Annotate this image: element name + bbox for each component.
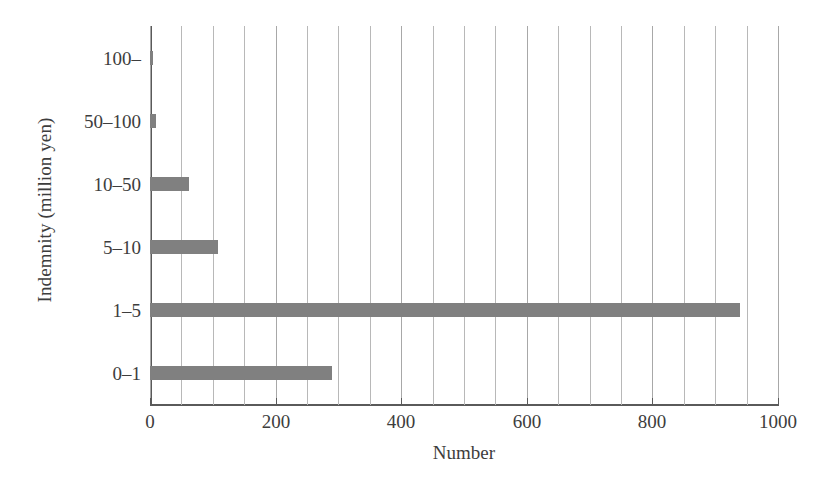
gridline <box>747 26 748 405</box>
gridline <box>778 26 779 405</box>
gridline <box>338 26 339 405</box>
bar <box>150 51 153 65</box>
x-axis-tick-mark <box>652 398 653 406</box>
gridline <box>558 26 559 405</box>
y-axis-tick-label: 50–100 <box>0 111 150 130</box>
bar <box>150 177 189 191</box>
y-axis-tick-label: 10–50 <box>0 174 150 193</box>
x-axis-tick-label: 600 <box>513 412 542 431</box>
gridline <box>684 26 685 405</box>
x-axis-tick-label: 800 <box>638 412 667 431</box>
y-axis-tick-label: 1–5 <box>0 301 150 320</box>
x-axis-tick-mark <box>401 398 402 406</box>
gridline <box>464 26 465 405</box>
gridline <box>213 26 214 405</box>
y-axis-tick-label: 0–1 <box>0 364 150 383</box>
x-axis-tick-label: 0 <box>145 412 155 431</box>
x-axis-tick-mark <box>527 398 528 406</box>
gridline <box>244 26 245 405</box>
x-axis-tick-mark <box>150 398 151 406</box>
gridline <box>495 26 496 405</box>
gridline <box>621 26 622 405</box>
gridline <box>150 26 151 405</box>
gridline <box>181 26 182 405</box>
bar <box>150 240 218 254</box>
x-axis-tick-label: 1000 <box>759 412 797 431</box>
bar <box>150 303 740 317</box>
gridline <box>433 26 434 405</box>
gridline <box>370 26 371 405</box>
x-axis-tick-mark <box>276 398 277 406</box>
x-axis-tick-label: 200 <box>262 412 291 431</box>
gridline <box>401 26 402 405</box>
bar <box>150 366 332 380</box>
y-axis-tick-label: 100– <box>0 48 150 67</box>
x-axis-title: Number <box>150 443 778 462</box>
gridline <box>652 26 653 405</box>
gridline <box>276 26 277 405</box>
x-axis-tick-mark <box>778 398 779 406</box>
y-axis-tick-label: 5–10 <box>0 238 150 257</box>
x-axis-tick-label: 400 <box>387 412 416 431</box>
bar <box>150 114 156 128</box>
bar-chart: Indemnity (million yen) 100–50–10010–505… <box>0 0 835 482</box>
gridline <box>590 26 591 405</box>
gridline <box>715 26 716 405</box>
y-axis-tick-labels: 100–50–10010–505–101–50–1 <box>0 0 150 482</box>
plot-area <box>150 26 778 405</box>
gridline <box>527 26 528 405</box>
gridline <box>307 26 308 405</box>
